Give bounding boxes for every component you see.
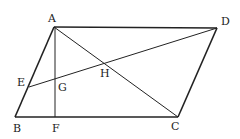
label-b: B [13,122,21,135]
label-e: E [17,76,25,89]
label-f: F [52,122,60,135]
label-d: D [221,15,230,28]
geometry-figure: A D B F C E G H [0,0,240,139]
label-c: C [171,120,179,133]
segment-ac [54,27,178,117]
label-h: H [100,67,110,80]
label-a: A [47,12,57,25]
parallelogram-diagram: A D B F C E G H [0,0,240,139]
segment-ab [15,27,54,117]
segment-dc [178,28,217,117]
label-g: G [58,81,67,94]
segment-ed [29,28,217,87]
segment-ad [54,27,217,28]
